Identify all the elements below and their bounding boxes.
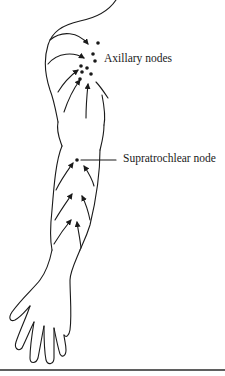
axillary-node-dots (78, 41, 100, 81)
supratrochlear-node-label: Supratrochlear node (123, 152, 216, 164)
supratrochlear-node-dot (75, 158, 79, 162)
axillary-nodes-label: Axillary nodes (104, 52, 172, 64)
arm-lymph-diagram: Axillary nodes Supratrochlear node (0, 0, 225, 376)
